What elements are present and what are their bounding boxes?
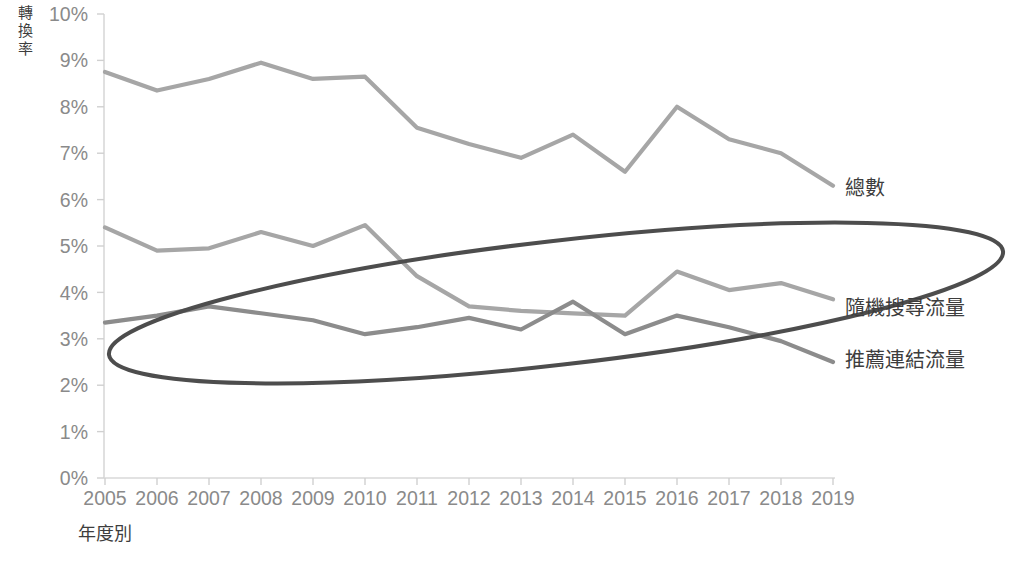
y-tick-label: 3% — [60, 328, 88, 350]
y-tick-label: 0% — [60, 467, 88, 489]
x-tick-label: 2018 — [759, 487, 802, 509]
y-axis-title: 轉 換 率 — [18, 4, 33, 57]
x-tick-label: 2017 — [707, 487, 750, 509]
y-tick-label: 8% — [60, 96, 88, 118]
y-tick-label: 2% — [60, 374, 88, 396]
x-tick-label: 2006 — [135, 487, 178, 509]
x-tick-label: 2016 — [655, 487, 698, 509]
y-tick-label: 6% — [60, 189, 88, 211]
x-tick-label: 2008 — [239, 487, 282, 509]
x-tick-label: 2011 — [396, 487, 438, 509]
y-tick-label: 1% — [60, 421, 88, 443]
series-layer — [105, 63, 833, 362]
y-tick-label: 10% — [49, 3, 88, 25]
x-axis-title: 年度別 — [78, 524, 132, 544]
y-tick-label: 9% — [60, 49, 88, 71]
series-label-organic: 隨機搜尋流量 — [845, 297, 965, 319]
chart-svg: 轉 換 率 10% 9% 8% 7% 6% 5% 4% 3% 2% 1% 0% — [0, 0, 1021, 567]
y-axis-title-char-3: 率 — [18, 40, 33, 57]
y-tick-label: 7% — [60, 142, 88, 164]
series-label-total: 總數 — [845, 177, 885, 199]
x-tick-label: 2005 — [83, 487, 127, 509]
y-tick-label: 4% — [60, 282, 88, 304]
y-tick-label: 5% — [60, 235, 88, 257]
x-tick-label: 2019 — [811, 487, 854, 509]
x-tick-label: 2012 — [447, 487, 490, 509]
x-tick-label: 2010 — [343, 487, 387, 509]
x-axis-tick-labels: 2005200620072008200920102011201220132014… — [83, 487, 854, 509]
y-axis-tick-labels: 10% 9% 8% 7% 6% 5% 4% 3% 2% 1% 0% — [49, 3, 88, 489]
conversion-rate-line-chart: 轉 換 率 10% 9% 8% 7% 6% 5% 4% 3% 2% 1% 0% — [0, 0, 1021, 567]
y-axis-title-char-2: 換 — [18, 22, 33, 39]
series-line-0 — [105, 63, 833, 186]
series-line-2 — [105, 302, 833, 362]
y-axis-ticks — [97, 14, 104, 478]
series-label-referral: 推薦連結流量 — [845, 349, 965, 371]
x-tick-label: 2007 — [187, 487, 230, 509]
x-tick-label: 2013 — [499, 487, 542, 509]
x-tick-label: 2014 — [551, 487, 595, 509]
x-tick-label: 2009 — [291, 487, 334, 509]
x-tick-label: 2015 — [603, 487, 647, 509]
x-axis-ticks — [105, 478, 833, 485]
y-axis-title-char-1: 轉 — [18, 4, 33, 21]
series-labels: 總數 隨機搜尋流量 推薦連結流量 — [845, 177, 965, 371]
